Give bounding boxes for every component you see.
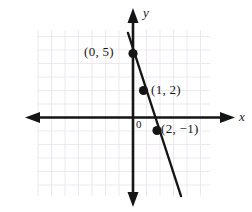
data-point-1-2 xyxy=(139,86,148,95)
x-axis-label: x xyxy=(239,109,245,125)
x-axis-right-arrowhead xyxy=(220,112,235,123)
origin-label: 0 xyxy=(136,118,142,130)
linear-function-graph: (0, 5) (1, 2) (2, −1) y x 0 xyxy=(0,0,252,212)
point-label-1-2: (1, 2) xyxy=(151,82,181,98)
y-axis-up-arrowhead xyxy=(128,8,139,23)
y-axis-down-arrowhead xyxy=(128,192,139,207)
point-label-2-minus1: (2, −1) xyxy=(161,121,199,137)
data-point-0-5 xyxy=(128,49,137,58)
x-axis xyxy=(25,112,235,123)
point-label-0-5: (0, 5) xyxy=(84,44,114,60)
graph-canvas xyxy=(0,0,252,212)
y-axis-label: y xyxy=(143,5,149,21)
x-axis-left-arrowhead xyxy=(25,112,40,123)
background-grid xyxy=(38,30,210,196)
